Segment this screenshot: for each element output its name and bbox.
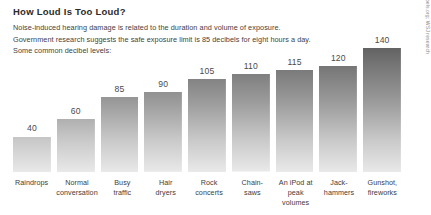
category-label: Busytraffic (104, 178, 141, 209)
category-label-line: Busy (104, 178, 141, 188)
bar (144, 92, 182, 172)
bar-value-label: 140 (375, 36, 390, 45)
category-label: An iPod atpeak volumes (277, 178, 314, 209)
category-label-line: peak volumes (277, 188, 314, 208)
bar (232, 74, 270, 172)
category-label: Normalconversation (56, 178, 97, 209)
category-label-line: Chain- (234, 178, 271, 188)
bar-group: 85 (101, 26, 139, 172)
category-label-row: RaindropsNormalconversationBusytrafficHa… (13, 178, 401, 209)
bar-value-label: 60 (71, 107, 81, 116)
category-label-line: hammers (320, 188, 357, 198)
bar-group: 140 (363, 26, 401, 172)
category-label: Hairdryers (147, 178, 184, 209)
category-label-line: saws (234, 188, 271, 198)
category-label: Raindrops (13, 178, 50, 209)
category-label: Chain-saws (234, 178, 271, 209)
bar-value-label: 105 (200, 67, 215, 76)
bar-group: 105 (188, 26, 226, 172)
bar-group: 120 (319, 26, 357, 172)
bar (363, 48, 401, 172)
bar-value-label: 40 (27, 124, 37, 133)
category-label-line: Raindrops (13, 178, 50, 188)
bar-group: 90 (144, 26, 182, 172)
category-label-line: Jack- (320, 178, 357, 188)
bar-chart: 40608590105110115120140 (13, 26, 401, 172)
category-label-line: Hair (147, 178, 184, 188)
bar-group: 110 (232, 26, 270, 172)
bar (319, 66, 357, 172)
category-label-line: Normal (56, 178, 97, 188)
bar-value-label: 85 (114, 85, 124, 94)
category-label-line: conversation (56, 188, 97, 198)
category-label: Rockconcerts (190, 178, 227, 209)
bar (13, 137, 51, 172)
category-label: Jack-hammers (320, 178, 357, 209)
bar (188, 79, 226, 172)
bar-value-label: 110 (244, 62, 258, 71)
category-label-line: dryers (147, 188, 184, 198)
bar (57, 119, 95, 172)
source-note: Sources: dangerousdecibels.org; WSJ rese… (425, 0, 431, 54)
bar-group: 40 (13, 26, 51, 172)
bar-value-label: 115 (287, 58, 301, 67)
bar-value-label: 90 (158, 80, 168, 89)
category-label-line: Gunshot, (364, 178, 401, 188)
bar-group: 115 (276, 26, 314, 172)
category-label-line: traffic (104, 188, 141, 198)
category-label-line: concerts (190, 188, 227, 198)
category-label: Gunshot,fireworks (364, 178, 401, 209)
category-label-line: Rock (190, 178, 227, 188)
bar (276, 70, 314, 172)
category-label-line: An iPod at (277, 178, 314, 188)
bar-chart-plot-area: 40608590105110115120140 (13, 26, 401, 172)
category-label-line: fireworks (364, 188, 401, 198)
bar-value-label: 120 (331, 54, 346, 63)
bar (101, 97, 139, 172)
page-title: How Loud Is Too Loud? (13, 7, 313, 17)
bar-group: 60 (57, 26, 95, 172)
